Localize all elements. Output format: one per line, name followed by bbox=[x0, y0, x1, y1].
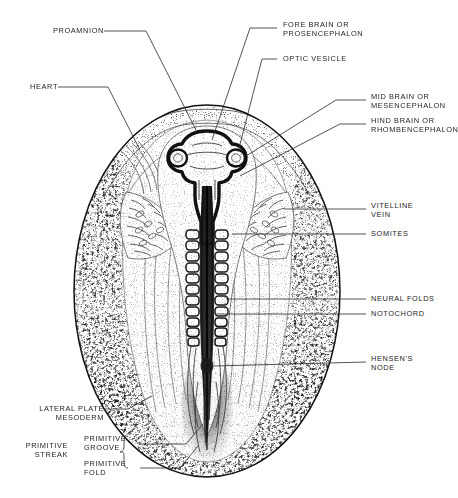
label-optic-vesicle: OPTIC VESICLE bbox=[283, 54, 347, 63]
label-notochord: NOTOCHORD bbox=[371, 309, 425, 318]
leader-heart bbox=[58, 87, 140, 150]
label-hind-brain: HIND BRAIN OR RHOMBENCEPHALON bbox=[371, 116, 458, 135]
label-primitive-fold: PRIMITIVE FOLD bbox=[84, 459, 126, 478]
label-primitive-groove: PRIMITIVE GROOVE bbox=[84, 434, 126, 453]
label-proamnion: PROAMNION bbox=[20, 26, 104, 35]
label-primitive-streak: PRIMITIVE STREAK bbox=[8, 441, 68, 460]
label-hensens-node: HENSEN'S NODE bbox=[371, 354, 413, 373]
label-lateral-plate-mesoderm: LATERAL PLATE MESODERM bbox=[12, 404, 104, 423]
disc-texture-overlay bbox=[75, 106, 339, 476]
label-mid-brain: MID BRAIN OR MESENCEPHALON bbox=[371, 92, 446, 111]
label-vitelline-vein: VITELLINE VEIN bbox=[371, 201, 413, 220]
label-heart: HEART bbox=[8, 82, 58, 91]
label-somites: SOMITES bbox=[371, 229, 408, 238]
blastoderm-disc bbox=[74, 105, 340, 480]
label-neural-folds: NEURAL FOLDS bbox=[371, 294, 435, 303]
label-fore-brain: FORE BRAIN OR PROSENCEPHALON bbox=[283, 20, 363, 39]
